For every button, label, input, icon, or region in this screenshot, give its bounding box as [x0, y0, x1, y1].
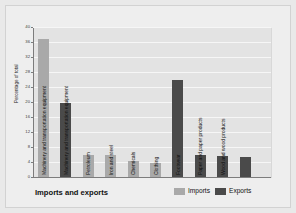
y-axis-tick-label: 24: [25, 85, 30, 89]
figure-frame: Percentage of total 0481216202428323640 …: [5, 5, 291, 208]
x-axis-category-label: Footwear: [176, 154, 181, 175]
legend-label-exports: Exports: [229, 188, 251, 195]
x-axis-category-label: Wood and wood products: [221, 118, 226, 175]
x-axis-category-label: Paper and paper products: [198, 117, 203, 175]
legend-label-imports: Imports: [188, 188, 210, 195]
chart-legend: Imports Exports: [174, 188, 251, 195]
y-axis-title: Percentage of total: [15, 64, 20, 103]
chart-screenshot: Percentage of total 0481216202428323640 …: [0, 0, 296, 213]
y-axis-tick-label: 0: [28, 175, 30, 179]
x-axis-category-label: Iron and steel: [109, 145, 114, 175]
x-axis-line: [33, 177, 271, 178]
x-axis-category-label: Clothing: [153, 157, 158, 175]
legend-item-exports: Exports: [215, 188, 251, 195]
x-axis-category-label: Machinery and transportation equipment: [64, 86, 69, 175]
bar: [240, 157, 251, 177]
legend-swatch-imports: [174, 188, 185, 195]
legend-item-imports: Imports: [174, 188, 210, 195]
bar-group: Machinery and transportation equipmentMa…: [34, 28, 271, 177]
x-axis-category-label: Machinery and transportation equipment: [41, 86, 46, 175]
y-axis-tick-label: 16: [25, 115, 30, 119]
y-axis-tick-label: 28: [25, 70, 30, 74]
plot-wrapper: 0481216202428323640 Machinery and transp…: [33, 28, 272, 178]
x-axis-category-label: Petroleum: [86, 152, 91, 175]
y-axis-tick-label: 20: [25, 100, 30, 104]
x-axis-category-label: Chemicals: [131, 152, 136, 175]
y-axis-tick-label: 32: [25, 55, 30, 59]
y-axis-tick-label: 8: [28, 145, 30, 149]
legend-swatch-exports: [215, 188, 226, 195]
y-axis-tick-label: 40: [25, 25, 30, 29]
plot-area: 0481216202428323640 Machinery and transp…: [33, 28, 272, 178]
y-axis-tick-label: 4: [28, 160, 30, 164]
x-axis-title: Imports and exports: [35, 189, 108, 197]
y-axis-tick-label: 12: [25, 130, 30, 134]
y-axis-tick-label: 36: [25, 40, 30, 44]
